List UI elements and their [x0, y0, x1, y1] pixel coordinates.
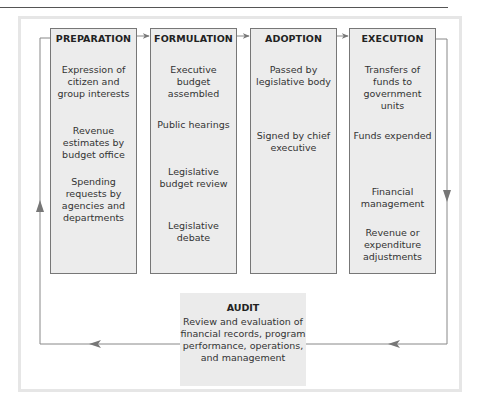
- stage-item: Spending requests by agencies and depart…: [51, 176, 136, 224]
- stage-item: Public hearings: [151, 119, 236, 131]
- audit-title: AUDIT: [180, 302, 306, 314]
- stage-item: Revenue estimates by budget office: [51, 125, 136, 161]
- stage-item: Funds expended: [350, 130, 435, 142]
- audit-description: Review and evaluation of financial recor…: [180, 316, 306, 364]
- stage-item: Financial management: [350, 186, 435, 210]
- stage-item: Legislative debate: [151, 220, 236, 244]
- stage-item: Revenue or expenditure adjustments: [350, 227, 435, 263]
- stage-title: EXECUTION: [350, 33, 435, 45]
- arrow-down-icon: [443, 190, 451, 202]
- arrow-up-icon: [36, 200, 44, 212]
- stage-preparation: PREPARATION Expression of citizen and gr…: [50, 28, 137, 274]
- stage-item: Transfers of funds to government units: [350, 64, 435, 112]
- stage-title: FORMULATION: [151, 33, 236, 45]
- stage-item: Expression of citizen and group interest…: [51, 64, 136, 100]
- stage-item: Passed by legislative body: [251, 64, 336, 88]
- stage-audit: AUDIT Review and evaluation of financial…: [180, 293, 306, 386]
- stage-item: Executive budget assembled: [151, 64, 236, 100]
- stage-item: Signed by chief executive: [251, 130, 336, 154]
- stage-title: ADOPTION: [251, 33, 336, 45]
- stage-adoption: ADOPTION Passed by legislative body Sign…: [250, 28, 337, 274]
- stage-execution: EXECUTION Transfers of funds to governme…: [349, 28, 436, 274]
- stage-formulation: FORMULATION Executive budget assembled P…: [150, 28, 237, 274]
- stage-title: PREPARATION: [51, 33, 136, 45]
- stage-item: Legislative budget review: [151, 166, 236, 190]
